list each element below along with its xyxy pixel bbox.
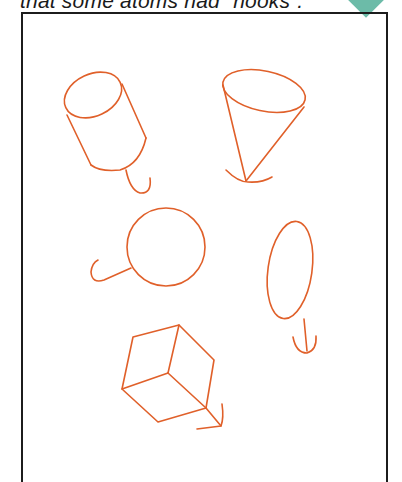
ellipsoid-with-hook-icon <box>261 218 318 353</box>
cone-with-hook-icon <box>219 63 309 182</box>
cube-with-hook-icon <box>122 325 223 429</box>
sphere-with-hook-icon <box>91 208 205 286</box>
cylinder-with-hook-icon <box>57 63 150 193</box>
